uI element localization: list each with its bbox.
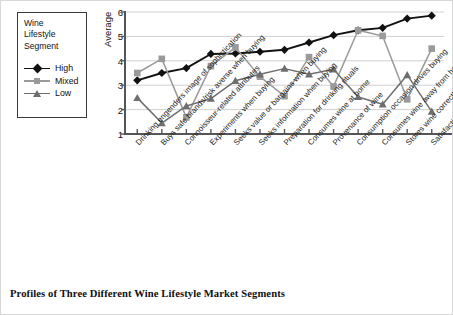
series-high (133, 12, 436, 85)
data-point-high-7 (305, 38, 313, 46)
data-point-mixed-10 (379, 33, 386, 40)
data-point-mixed-3 (208, 63, 215, 70)
data-point-mixed-2 (183, 114, 190, 121)
data-point-high-2 (182, 64, 190, 72)
data-point-mixed-1 (159, 56, 166, 63)
data-point-mixed-8 (330, 83, 337, 90)
data-point-mixed-11 (404, 96, 411, 103)
data-point-low-6 (281, 65, 289, 72)
data-point-mixed-4 (232, 44, 239, 51)
data-point-high-8 (329, 31, 337, 39)
data-point-high-3 (207, 50, 215, 58)
plot-area: Average 123456 (1, 1, 453, 151)
data-point-low-11 (403, 71, 411, 78)
data-point-low-0 (133, 94, 141, 101)
data-point-mixed-0 (134, 70, 141, 77)
data-point-mixed-7 (306, 54, 313, 61)
figure-container: Wine Lifestyle Segment High Mixed (0, 0, 453, 315)
data-point-high-12 (428, 12, 436, 20)
data-point-high-1 (158, 69, 166, 77)
data-point-high-0 (133, 76, 141, 84)
data-point-mixed-9 (355, 27, 362, 34)
data-point-high-11 (403, 14, 411, 22)
figure-caption: Profiles of Three Different Wine Lifesty… (10, 288, 285, 299)
series-mixed (134, 27, 435, 121)
data-point-mixed-12 (428, 45, 435, 52)
data-point-high-10 (379, 24, 387, 32)
data-point-high-6 (280, 46, 288, 54)
data-point-mixed-6 (281, 93, 288, 100)
data-point-low-8 (330, 65, 338, 72)
line-chart-svg (1, 1, 453, 151)
data-point-high-5 (256, 48, 264, 56)
